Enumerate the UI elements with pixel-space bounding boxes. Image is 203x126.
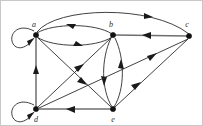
node-b-label: b: [109, 20, 113, 29]
edge-d-to-a-arrowhead: [33, 65, 39, 74]
edge-d-to-d-path: [12, 102, 34, 122]
node-e[interactable]: e: [110, 106, 115, 124]
edge-a-to-a: [12, 28, 34, 48]
edge-a-to-e-arrowhead: [77, 77, 87, 85]
node-c[interactable]: c: [185, 20, 191, 39]
edge-a-to-b: [37, 37, 112, 46]
edge-e-to-d-arrowhead: [66, 106, 75, 113]
node-e-dot[interactable]: [110, 106, 115, 111]
node-a-dot[interactable]: [33, 32, 38, 37]
edge-d-to-c: [39, 39, 188, 108]
node-c-dot[interactable]: [186, 33, 191, 38]
node-e-label: e: [111, 115, 115, 124]
edge-d-to-b-arrowhead: [74, 64, 84, 72]
node-c-label: c: [185, 20, 189, 29]
node-a-label: a: [32, 20, 36, 29]
graph-figure: a b c d e: [0, 0, 203, 126]
edge-a-to-c-arrowhead: [144, 13, 153, 19]
edge-a-to-c: [37, 12, 189, 34]
node-a[interactable]: a: [32, 20, 39, 38]
node-d-label: d: [34, 115, 39, 124]
edge-c-to-b: [115, 32, 188, 39]
edge-d-to-a: [33, 38, 39, 107]
node-d-dot[interactable]: [33, 106, 38, 111]
edge-e-to-d: [39, 106, 111, 113]
edge-c-to-b-path: [115, 35, 188, 36]
edge-b-to-e: [101, 38, 112, 107]
edge-b-to-a: [37, 24, 112, 34]
edge-a-to-c-path: [37, 12, 189, 34]
node-d[interactable]: d: [33, 106, 39, 124]
edge-b-to-a-path: [37, 26, 112, 34]
edge-b-to-a-arrowhead: [66, 24, 76, 29]
node-b[interactable]: b: [109, 20, 116, 38]
edge-c-to-b-arrowhead: [142, 32, 151, 39]
edge-e-to-c: [115, 39, 188, 107]
node-b-dot[interactable]: [110, 32, 115, 37]
edge-d-to-d: [12, 102, 34, 122]
edge-e-to-b-arrowhead: [118, 59, 124, 69]
edge-a-to-a-path: [12, 28, 34, 48]
edge-a-to-b-arrowhead: [73, 41, 83, 46]
edge-d-to-c-path: [39, 39, 188, 108]
edge-b-to-e-path: [104, 38, 112, 107]
directed-graph-canvas: a b c d e: [1, 1, 203, 126]
edge-d-to-c-arrowhead: [147, 53, 157, 61]
edge-e-to-c-arrowhead: [131, 82, 141, 90]
edge-e-to-c-path: [115, 39, 188, 107]
